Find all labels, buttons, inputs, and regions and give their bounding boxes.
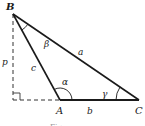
- side-c-line: [13, 14, 60, 100]
- angle-label-alpha: α: [62, 77, 68, 87]
- side-label-p: p: [2, 57, 8, 67]
- vertex-label-c: C: [135, 105, 143, 116]
- triangle-diagram: B A C a b c p β α γ Figure: [0, 0, 145, 126]
- side-label-a: a: [78, 47, 83, 57]
- right-angle-marker: [13, 93, 20, 100]
- figure-caption: Figure: [50, 122, 74, 126]
- vertex-label-a: A: [55, 105, 63, 116]
- side-label-c: c: [31, 63, 36, 73]
- side-a-line: [13, 14, 139, 100]
- angle-beta-arc: [22, 24, 28, 30]
- angle-label-gamma: γ: [102, 89, 108, 99]
- angle-gamma-arc: [116, 87, 120, 100]
- side-label-b: b: [87, 106, 93, 116]
- vertex-label-b: B: [5, 1, 14, 12]
- angle-label-beta: β: [43, 39, 49, 49]
